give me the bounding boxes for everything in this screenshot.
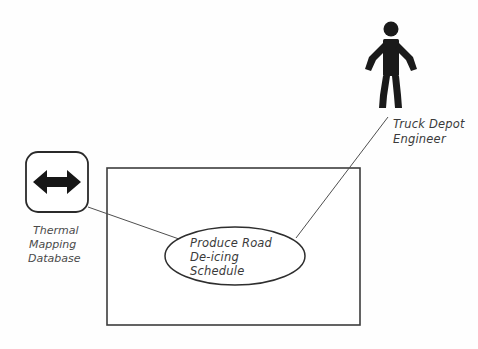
database-label-line2: Mapping — [29, 238, 76, 251]
use-case-diagram-canvas: Produce Road De-icing Schedule Thermal M… — [0, 0, 478, 349]
actor-label-line2: Engineer — [393, 132, 447, 146]
use-case-label-line1: Produce Road — [190, 236, 273, 250]
database-label-line1: Thermal — [33, 224, 79, 237]
database-label-line3: Database — [28, 252, 81, 265]
use-case-label-line2: De-icing — [190, 250, 239, 264]
stick-figure-actor-icon[interactable] — [365, 22, 417, 109]
use-case-label-line3: Schedule — [190, 264, 244, 278]
diagram-svg: Produce Road De-icing Schedule Thermal M… — [0, 0, 478, 349]
actor-label-line1: Truck Depot — [393, 117, 465, 131]
